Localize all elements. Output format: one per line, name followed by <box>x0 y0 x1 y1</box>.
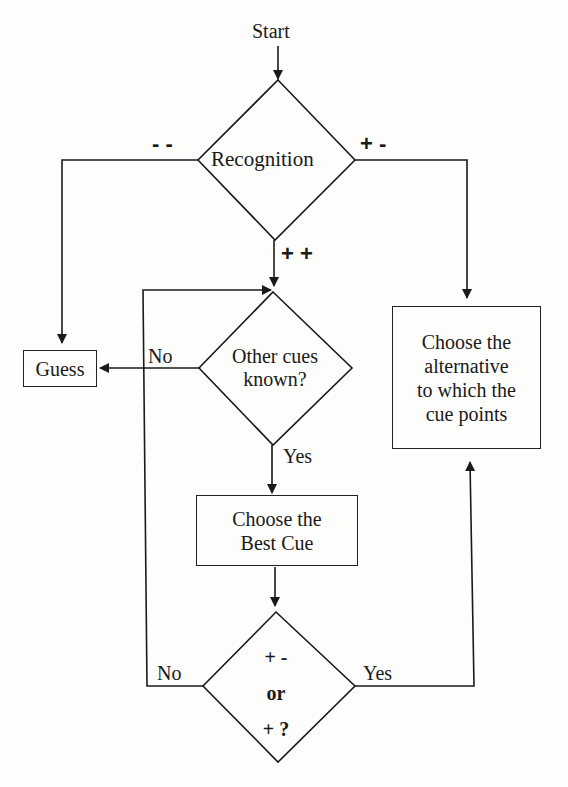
choose-alternative-box: Choose the alternative to which the cue … <box>392 306 541 449</box>
choose-alternative-line2: alternative <box>417 354 516 378</box>
cue-test-label: + - or + ? <box>226 639 326 747</box>
cue-test-no-label: No <box>157 662 181 684</box>
choose-best-cue-box: Choose the Best Cue <box>196 495 358 566</box>
guess-label: Guess <box>36 357 85 381</box>
choose-alternative-line3: to which the <box>417 378 516 402</box>
start-label: Start <box>252 20 290 42</box>
guess-box: Guess <box>23 350 97 387</box>
other-cues-no-label: No <box>148 345 172 367</box>
recognition-left-arrow <box>62 160 198 343</box>
recognition-right-arrow <box>355 160 467 298</box>
recognition-left-label: - - <box>152 133 173 155</box>
other-cues-label-line1: Other cues <box>205 345 345 368</box>
cue-test-yes-arrow <box>355 462 474 686</box>
cue-test-line2: or <box>226 675 326 711</box>
recognition-down-label: + + <box>281 243 313 265</box>
recognition-right-label: + - <box>360 133 386 155</box>
other-cues-label: Other cues known? <box>205 345 345 391</box>
choose-best-cue-line2: Best Cue <box>232 531 321 555</box>
choose-alternative-line1: Choose the <box>417 330 516 354</box>
choose-alternative-line4: cue points <box>417 402 516 426</box>
cue-test-yes-label: Yes <box>363 662 392 684</box>
other-cues-label-line2: known? <box>205 368 345 391</box>
recognition-label: Recognition <box>211 148 314 170</box>
choose-best-cue-line1: Choose the <box>232 507 321 531</box>
other-cues-yes-label: Yes <box>283 445 312 467</box>
cue-test-line1: + - <box>226 639 326 675</box>
cue-test-line3: + ? <box>226 711 326 747</box>
